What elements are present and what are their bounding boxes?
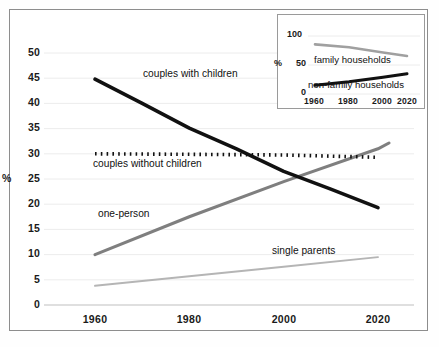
y-tick-35: 35: [14, 121, 40, 133]
chart-screenshot: 50 45 40 35 30 25 20 15 10 5 0 % 1960 19…: [0, 0, 439, 347]
y-tick-45: 45: [14, 71, 40, 83]
inset-label-non-family-households: non-family households: [308, 79, 404, 90]
inset-label-family-households: family households: [314, 54, 391, 65]
y-tick-10: 10: [14, 247, 40, 259]
y-tick-50: 50: [14, 46, 40, 58]
inset-x-tick-2020: 2020: [392, 96, 422, 106]
inset-x-tick-1960: 1960: [299, 96, 329, 106]
label-couples-without-children: couples without children: [93, 158, 202, 169]
x-tick-1960: 1960: [73, 313, 117, 325]
inset-chart: 100 50 0 % 1960 1980 2000 2020 family ho…: [277, 14, 425, 109]
inset-y-axis-unit-label: %: [274, 58, 282, 68]
inset-x-tick-1980: 1980: [333, 96, 363, 106]
x-tick-1980: 1980: [167, 313, 211, 325]
inset-y-tick-100: 100: [280, 29, 302, 39]
y-tick-20: 20: [14, 197, 40, 209]
y-tick-15: 15: [14, 222, 40, 234]
label-couples-with-children: couples with children: [143, 68, 238, 79]
series-single-parents: [95, 257, 378, 286]
label-single-parents: single parents: [272, 245, 335, 256]
y-axis-unit-label: %: [2, 172, 11, 184]
y-tick-5: 5: [14, 273, 40, 285]
label-one-person: one-person: [98, 208, 150, 219]
y-tick-40: 40: [14, 96, 40, 108]
y-tick-0: 0: [14, 298, 40, 310]
y-tick-25: 25: [14, 172, 40, 184]
inset-y-tick-50: 50: [284, 58, 306, 68]
series-couples-without-children: [95, 154, 378, 158]
x-tick-2020: 2020: [356, 313, 400, 325]
x-tick-2000: 2000: [262, 313, 306, 325]
y-tick-30: 30: [14, 147, 40, 159]
